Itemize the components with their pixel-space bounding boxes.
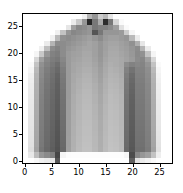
y-tick-label: 0 — [13, 157, 18, 165]
y-tick-label: 5 — [13, 130, 18, 138]
y-tick-mark — [19, 80, 22, 81]
y-tick-label: 20 — [7, 49, 18, 57]
plot-axes — [22, 13, 173, 164]
y-tick-mark — [19, 107, 22, 108]
matplotlib-figure: 0510152025 0510152025 — [0, 0, 183, 193]
y-tick-mark — [19, 134, 22, 135]
x-tick-label: 0 — [22, 168, 27, 176]
y-tick-label: 10 — [7, 103, 18, 111]
x-tick-label: 5 — [49, 168, 54, 176]
y-tick-label: 25 — [7, 22, 18, 30]
x-tick-label: 10 — [73, 168, 84, 176]
grayscale-image-heatmap — [23, 14, 172, 163]
y-tick-mark — [19, 53, 22, 54]
y-tick-label: 15 — [7, 76, 18, 84]
x-tick-label: 25 — [154, 168, 165, 176]
y-tick-mark — [19, 26, 22, 27]
x-tick-label: 15 — [100, 168, 111, 176]
y-tick-mark — [19, 161, 22, 162]
x-tick-label: 20 — [127, 168, 138, 176]
